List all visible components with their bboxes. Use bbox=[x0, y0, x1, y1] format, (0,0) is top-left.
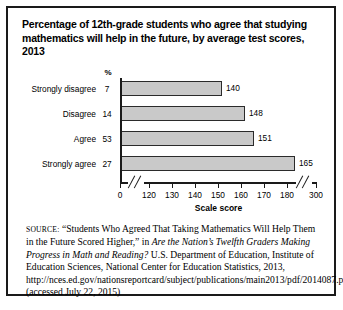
table-row: Strongly disagree 7 140 bbox=[8, 78, 334, 103]
category-label: Agree bbox=[74, 134, 96, 144]
bar-track: 165 bbox=[121, 153, 321, 178]
x-tick bbox=[241, 183, 242, 188]
percent-value: 27 bbox=[100, 159, 114, 169]
axis-break-right bbox=[296, 175, 312, 189]
x-tick-label: 180 bbox=[272, 190, 302, 200]
table-row: Agree 53 151 bbox=[8, 128, 334, 153]
axis-break-left bbox=[128, 175, 144, 189]
bar-track: 148 bbox=[121, 103, 321, 128]
bar-track: 140 bbox=[121, 78, 321, 103]
bar-value-label: 140 bbox=[226, 83, 240, 93]
bar-rows: Strongly disagree 7 140 Disagree 14 148 … bbox=[8, 78, 334, 178]
bar-value-label: 148 bbox=[249, 108, 263, 118]
bar-value-label: 165 bbox=[299, 158, 313, 168]
source-note: SOURCE: “Students Who Agreed That Taking… bbox=[26, 223, 322, 298]
x-tick bbox=[316, 183, 317, 188]
bar-value-label: 151 bbox=[258, 133, 272, 143]
figure-frame: Percentage of 12th-grade students who ag… bbox=[6, 6, 336, 296]
bar bbox=[121, 106, 245, 121]
x-axis-label: Scale score bbox=[120, 203, 317, 213]
x-tick bbox=[149, 183, 150, 188]
table-row: Strongly agree 27 165 bbox=[8, 153, 334, 178]
chart-plot-region: % Strongly disagree 7 140 Disagree 14 14… bbox=[8, 66, 334, 216]
percent-value: 7 bbox=[100, 84, 114, 94]
bar bbox=[121, 81, 222, 96]
x-tick bbox=[172, 183, 173, 188]
category-label: Strongly disagree bbox=[31, 84, 96, 94]
x-tick bbox=[120, 183, 121, 188]
bar-track: 151 bbox=[121, 128, 321, 153]
percent-value: 14 bbox=[100, 109, 114, 119]
bar bbox=[121, 156, 295, 171]
x-tick bbox=[195, 183, 196, 188]
source-label: SOURCE: bbox=[26, 225, 59, 234]
chart-title: Percentage of 12th-grade students who ag… bbox=[22, 18, 322, 59]
category-label: Disagree bbox=[63, 109, 96, 119]
category-label: Strongly agree bbox=[42, 159, 96, 169]
percent-column-header: % bbox=[100, 68, 116, 77]
bar bbox=[121, 131, 254, 146]
y-axis-line bbox=[120, 78, 122, 182]
x-tick bbox=[264, 183, 265, 188]
x-tick-label: 300 bbox=[301, 190, 331, 200]
table-row: Disagree 14 148 bbox=[8, 103, 334, 128]
percent-value: 53 bbox=[100, 134, 114, 144]
x-tick-label: 0 bbox=[105, 190, 135, 200]
x-tick bbox=[287, 183, 288, 188]
x-tick bbox=[218, 183, 219, 188]
